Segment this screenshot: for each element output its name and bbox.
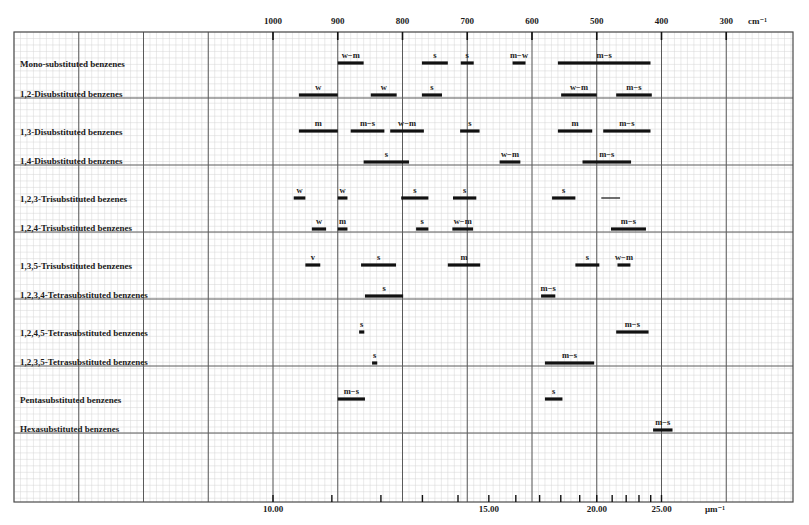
band-intensity-label: m−s (625, 319, 641, 329)
band-bar (500, 160, 521, 163)
band-intensity-label: w (381, 82, 388, 92)
row-12: Hexasubstituted benzenesm−s (20, 417, 673, 434)
band-intensity-label: m−s (599, 149, 615, 159)
band-intensity-label: m−s (344, 386, 360, 396)
top-axis-unit: cm⁻¹ (748, 16, 767, 26)
band-intensity-label: w−m (398, 118, 416, 128)
band-intensity-label: w (316, 216, 323, 226)
band-intensity-label: m−s (360, 118, 376, 128)
band-bar (422, 61, 448, 64)
band-bar (583, 160, 632, 163)
band-bar (361, 263, 396, 266)
top-tick-label: 500 (590, 16, 604, 26)
row-3: 1,3-Disubstituted benzenesmm−sw−msmm−s (20, 118, 650, 137)
top-axis-wavenumber: 1000900800700600500400300 (264, 16, 734, 40)
band-bar (558, 61, 651, 64)
row-label: 1,2,4,5-Tetrasubstituted benzenes (20, 328, 148, 338)
row-11: Pentasubstituted benzenesm−ss (20, 386, 562, 405)
band-bar (575, 263, 599, 266)
ir-band-chart: 1000900800700600500400300 10.0015.0020.0… (0, 0, 809, 525)
band-bar (312, 227, 326, 230)
band-intensity-label: m−s (619, 118, 635, 128)
band-intensity-label: s (463, 185, 467, 195)
band-intensity-label: w−m (454, 216, 472, 226)
row-label: Pentasubstituted benzenes (20, 395, 122, 405)
band-bar (460, 129, 479, 132)
band-intensity-label: m−s (597, 50, 613, 60)
row-label: Hexasubstituted benzenes (20, 424, 120, 434)
row-label: 1,2-Disubstituted benzenes (20, 89, 123, 99)
band-bar (603, 129, 650, 132)
band-bar (305, 263, 320, 266)
band-intensity-label: w (315, 82, 322, 92)
band-intensity-label: s (377, 252, 381, 262)
band-bar (653, 428, 672, 431)
row-label: 1,3-Disubstituted benzenes (20, 127, 123, 137)
band-bar (338, 196, 348, 199)
bottom-tick-label: 15.00 (479, 504, 500, 514)
top-tick-label: 400 (655, 16, 669, 26)
band-bar (299, 129, 338, 132)
band-bar (453, 196, 476, 199)
row-label: 1,2,3-Trisubstituted bezenes (20, 194, 128, 204)
band-bar (448, 263, 480, 266)
band-bar (552, 196, 575, 199)
band-bar (611, 227, 646, 230)
band-bar (351, 129, 385, 132)
top-tick-label: 700 (461, 16, 475, 26)
band-bar (390, 129, 424, 132)
top-tick-label: 900 (331, 16, 345, 26)
row-label: 1,3,5-Trisubstituted benzenes (20, 261, 133, 271)
bottom-tick-label: 10.00 (263, 504, 284, 514)
band-intensity-label: m−w (510, 50, 529, 60)
bottom-tick-label: 20.00 (587, 504, 608, 514)
bottom-tick-label: 25.00 (651, 504, 672, 514)
row-1: Mono-substituted benzenesw−mssm−wm−s (20, 50, 650, 69)
band-bar (359, 330, 364, 333)
band-bar (338, 227, 348, 230)
band-bar (371, 93, 397, 96)
band-bar (452, 227, 473, 230)
band-bar (364, 160, 409, 163)
row-5: 1,2,3-Trisubstituted bezeneswwsss (20, 185, 620, 204)
substitution-rows: Mono-substituted benzenesw−mssm−wm−s1,2-… (20, 50, 673, 434)
band-bar (365, 294, 403, 297)
row-7: 1,3,5-Trisubstituted benzenesvsmsw−m (20, 252, 633, 271)
row-6: 1,2,4-Trisubstituted benzeneswmsw−mm−s (20, 216, 646, 233)
band-bar (541, 294, 555, 297)
top-tick-label: 300 (720, 16, 734, 26)
band-intensity-label: m (460, 252, 467, 262)
row-4: 1,4-Disubstituted benzenessw−mm−s (20, 149, 631, 166)
band-intensity-label: m−s (655, 417, 671, 427)
band-bar (372, 361, 377, 364)
band-intensity-label: m−s (541, 283, 557, 293)
band-bar (401, 196, 428, 199)
band-intensity-label: s (468, 118, 472, 128)
band-intensity-label: m (339, 216, 346, 226)
band-intensity-label: s (586, 252, 590, 262)
top-tick-label: 600 (525, 16, 539, 26)
band-bar (545, 361, 594, 364)
band-bar (461, 61, 474, 64)
band-intensity-label: s (413, 185, 417, 195)
row-9: 1,2,4,5-Tetrasubstituted benzenessm−s (20, 319, 649, 338)
band-intensity-label: w−m (501, 149, 519, 159)
band-intensity-label: m (315, 118, 322, 128)
band-bar (616, 330, 648, 333)
band-bar (545, 397, 562, 400)
band-intensity-label: s (562, 185, 566, 195)
band-bar (601, 197, 620, 198)
row-10: 1,2,3,5-Tetrasubstituted benzenessm−s (20, 350, 594, 367)
band-intensity-label: w−m (570, 82, 588, 92)
row-label: 1,2,4-Trisubstituted benzenes (20, 223, 133, 233)
band-intensity-label: w−m (342, 50, 360, 60)
band-intensity-label: m−s (626, 82, 642, 92)
band-bar (338, 61, 364, 64)
band-intensity-label: m−s (562, 350, 578, 360)
band-bar (422, 93, 442, 96)
band-intensity-label: s (421, 216, 425, 226)
band-intensity-label: s (385, 149, 389, 159)
row-label: 1,2,3,5-Tetrasubstituted benzenes (20, 357, 148, 367)
row-label: 1,2,3,4-Tetrasubstituted benzenes (20, 290, 148, 300)
band-bar (416, 227, 428, 230)
